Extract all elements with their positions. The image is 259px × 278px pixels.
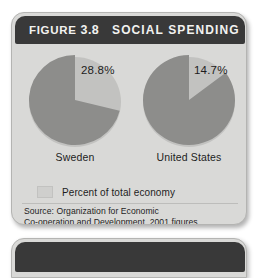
figure-card: FIGURE 3.8 SOCIAL SPENDING 28.8% Sweden (11, 12, 247, 225)
source-line-1: Source: Organization for Economic (24, 206, 238, 217)
pie-graphic-sweden: 28.8% (25, 52, 125, 149)
pie-value-sweden: 28.8% (81, 64, 115, 76)
legend-label: Percent of total economy (62, 187, 175, 198)
source-note: Source: Organization for Economic Co-ope… (24, 206, 238, 225)
figure-header-number: 3.8 (81, 23, 100, 37)
pie-chart-united-states: 14.7% United States (134, 52, 244, 163)
legend-swatch-icon (37, 186, 53, 198)
next-figure-header-bar (15, 242, 245, 272)
figure-header-bar: FIGURE 3.8 SOCIAL SPENDING (15, 16, 245, 44)
source-divider (22, 203, 238, 204)
figure-header-title: SOCIAL SPENDING (112, 23, 240, 37)
pie-label-sweden: Sweden (20, 151, 130, 163)
figure-header-text: FIGURE 3.8 SOCIAL SPENDING (15, 23, 240, 37)
source-line-2: Co-operation and Development, 2001 figur… (24, 217, 238, 226)
next-figure-card (11, 238, 247, 278)
pie-chart-sweden: 28.8% Sweden (20, 52, 130, 163)
legend: Percent of total economy (12, 181, 246, 203)
pie-label-united-states: United States (134, 151, 244, 163)
pie-value-united-states: 14.7% (194, 64, 228, 76)
figure-header-prefix: FIGURE (29, 24, 77, 36)
chart-body: 28.8% Sweden 14.7% United States (12, 46, 246, 178)
pie-graphic-united-states: 14.7% (139, 52, 239, 149)
